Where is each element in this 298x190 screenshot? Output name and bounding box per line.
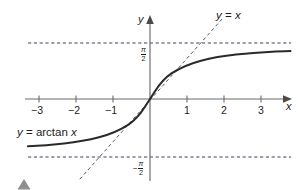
arctan-graph-figure: y x −3 −2 −1 1 2 3 π 2 − π 2 y = x y = a… <box>0 0 298 190</box>
identity-line-label: y = x <box>216 10 241 22</box>
y-tick-label-minus-pi-over-2: − π 2 <box>133 160 143 176</box>
pi-over-2-numerator: π <box>141 46 146 54</box>
minus-pi-over-2-denominator: 2 <box>139 169 143 177</box>
minus-pi-over-2-fraction: π 2 <box>138 160 143 176</box>
identity-line-label-equals: = <box>225 9 232 21</box>
minus-sign: − <box>133 164 138 173</box>
x-tick-label-3: 3 <box>258 105 264 116</box>
x-axis-label: x <box>286 101 292 112</box>
y-axis-arrowhead <box>146 15 154 24</box>
arctan-label-function: arctan <box>36 126 68 138</box>
arctan-label-variable: x <box>71 126 77 138</box>
plot-canvas <box>0 0 298 190</box>
x-tick-label-1: 1 <box>184 105 190 116</box>
arctan-label-y: y <box>17 126 23 138</box>
x-tick-label--3: −3 <box>31 105 43 116</box>
minus-pi-over-2-numerator: π <box>139 160 144 168</box>
identity-line-label-y: y <box>216 9 222 21</box>
pi-over-2-denominator: 2 <box>142 55 146 63</box>
x-tick-label-2: 2 <box>221 105 227 116</box>
identity-line-label-x: x <box>235 9 241 21</box>
x-tick-label--2: −2 <box>68 105 80 116</box>
y-axis-label: y <box>138 14 144 25</box>
arctan-curve-label: y = arctan x <box>17 127 77 139</box>
arctan-label-equals: = <box>26 126 33 138</box>
x-tick-label--1: −1 <box>105 105 117 116</box>
y-tick-label-pi-over-2: π 2 <box>141 46 146 62</box>
corner-triangle-marker <box>18 179 31 190</box>
